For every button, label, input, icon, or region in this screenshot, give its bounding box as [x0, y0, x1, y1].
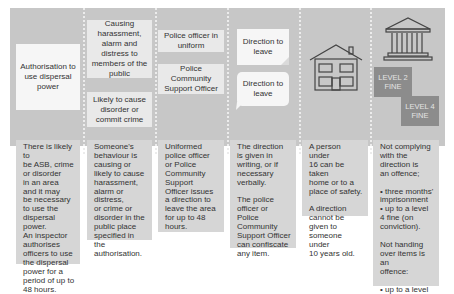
disorder-label: Likely to cause disorder or commit crime	[91, 95, 148, 125]
harassment-box: Causing harassment, alarm and distress t…	[87, 20, 152, 78]
direction-description: The direction is given in writing, or if…	[230, 140, 296, 248]
column-divider	[370, 8, 372, 154]
level-4-fine-badge: LEVEL 4 FINE	[401, 96, 439, 126]
behaviour-description: Someone's behaviour is causing or likely…	[87, 140, 152, 240]
pcso-label: Police Community Support Officer	[161, 64, 221, 94]
level-2-fine-badge: LEVEL 2 FINE	[374, 67, 412, 97]
offence-description: Not complying with the direction is an o…	[373, 140, 439, 286]
speech-bubble-icon	[234, 102, 244, 112]
pcso-box: Police Community Support Officer	[158, 64, 224, 94]
officer-description: Uniformed police officer or Police Commu…	[158, 140, 224, 232]
column-divider	[83, 8, 85, 154]
harassment-label: Causing harassment, alarm and distress t…	[90, 19, 149, 79]
under16-description: A person under 16 can be taken home or t…	[302, 140, 368, 216]
house-icon	[308, 44, 364, 92]
verbal-direction-box: Direction to leave	[237, 72, 289, 106]
column-divider	[299, 8, 301, 154]
police-officer-label: Police officer in uniform	[161, 31, 221, 51]
disorder-box: Likely to cause disorder or commit crime	[87, 92, 152, 127]
authorisation-description: There is likely to be ASB, crime or diso…	[16, 140, 80, 264]
authorisation-label: Authorisation to use dispersal power	[19, 62, 77, 92]
column-divider	[155, 8, 157, 154]
verbal-direction-label: Direction to leave	[240, 79, 286, 99]
written-direction-label: Direction to leave	[240, 37, 286, 57]
police-officer-box: Police officer in uniform	[158, 30, 224, 52]
authorisation-box: Authorisation to use dispersal power	[16, 44, 80, 110]
written-note-icon	[281, 57, 289, 65]
courthouse-icon	[382, 17, 434, 62]
column-divider	[227, 8, 229, 154]
